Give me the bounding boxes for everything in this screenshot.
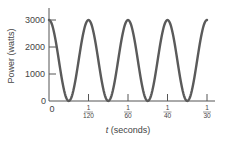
y-tick-label-1000: 1000 [25,69,45,79]
x-tick-label-1-40: 1 40 [164,104,172,119]
x-tick-label-1-60: 1 60 [124,104,132,119]
x-tick-label-1-120: 1 120 [83,104,94,119]
x-tick-label-0: 0 [49,104,54,114]
y-tick-label-0: 0 [41,96,46,106]
svg-text:30: 30 [203,112,211,119]
svg-text:40: 40 [164,112,172,119]
svg-text:1: 1 [126,104,130,111]
y-tick-label-3000: 3000 [25,15,45,25]
y-axis-title: Power (watts) [6,28,16,83]
y-tick-label-2000: 2000 [25,42,45,52]
svg-text:60: 60 [124,112,132,119]
power-chart: 3000 2000 1000 0 0 1 120 1 60 1 40 1 30 … [0,0,232,145]
svg-text:120: 120 [83,112,94,119]
x-tick-label-1-30: 1 30 [203,104,211,119]
power-curve [49,20,207,101]
svg-text:1: 1 [166,104,170,111]
x-axis-title: t (seconds) [106,125,151,135]
svg-text:1: 1 [205,104,209,111]
svg-text:1: 1 [87,104,91,111]
